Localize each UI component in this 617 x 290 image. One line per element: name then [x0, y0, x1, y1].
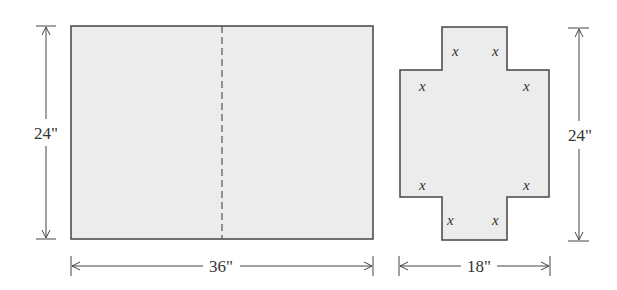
sheet-height-label: 24" [34, 124, 58, 143]
sheet-width-label: 36" [209, 257, 233, 276]
cutout-shape: x x x x x x x x [400, 27, 549, 240]
corner-label: x [446, 212, 454, 228]
corner-label: x [418, 177, 426, 193]
corner-label: x [522, 177, 530, 193]
corner-label: x [491, 43, 499, 59]
sheet-width-dimension: 36" [71, 256, 373, 276]
cutout-width-label: 18" [467, 257, 491, 276]
cutout-height-dimension: 24" [568, 28, 592, 241]
diagram-canvas: 24" 36" x x x x x x x x 24" 18" [0, 0, 617, 290]
corner-label: x [522, 78, 530, 94]
corner-label: x [451, 43, 459, 59]
cutout-height-label: 24" [568, 126, 592, 145]
corner-label: x [418, 78, 426, 94]
corner-label: x [491, 212, 499, 228]
sheet-height-dimension: 24" [34, 26, 58, 239]
cutout-width-dimension: 18" [399, 256, 550, 276]
sheet-rectangle [71, 26, 373, 239]
